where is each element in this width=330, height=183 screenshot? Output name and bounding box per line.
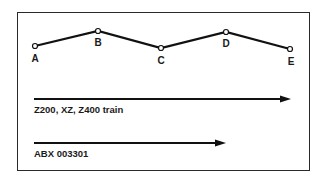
node-label-b: B xyxy=(94,38,101,48)
node-label-d: D xyxy=(222,39,229,49)
node-e-marker xyxy=(288,47,293,52)
route-label-1: Z200, XZ, Z400 train xyxy=(34,105,123,115)
route-arrow-1 xyxy=(34,96,291,103)
route-arrow-2 xyxy=(34,140,226,147)
node-label-c: C xyxy=(157,56,164,66)
node-label-a: A xyxy=(31,54,38,64)
node-b-marker xyxy=(96,29,101,34)
arrowhead-icon xyxy=(280,96,291,103)
node-a-marker xyxy=(33,44,38,49)
node-d-marker xyxy=(224,30,229,35)
route-label-2: ABX 003301 xyxy=(34,149,88,159)
node-c-marker xyxy=(159,46,164,51)
node-label-e: E xyxy=(288,57,295,67)
arrowhead-icon xyxy=(215,140,226,147)
